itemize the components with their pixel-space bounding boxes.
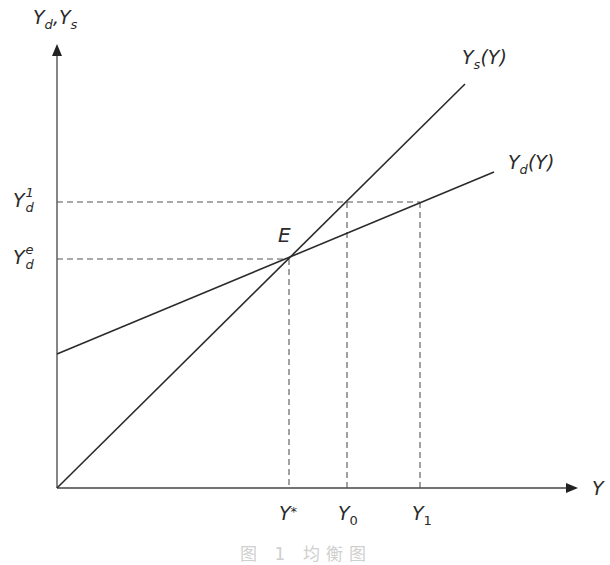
label-part: Y [338, 502, 350, 524]
label-part: Y [508, 151, 520, 173]
x-tick-y1: Y1 [412, 504, 432, 523]
demand-curve-label: Yd(Y) [508, 153, 554, 172]
x-axis-label: Y [592, 479, 604, 498]
label-part: e [26, 243, 34, 256]
label-part: d [26, 258, 34, 271]
label-part: (Y) [480, 46, 506, 68]
label-part: d [520, 162, 528, 177]
label-part: 0 [350, 513, 358, 528]
label-part: d [45, 17, 53, 32]
label-part: * [291, 504, 298, 519]
equilibrium-label: E [278, 225, 291, 245]
label-part: s [474, 57, 481, 72]
label-part: Y [279, 502, 291, 524]
demand-line [57, 172, 494, 354]
y-axis-label: Yd,Ys [33, 8, 77, 27]
label-part: s [71, 17, 78, 32]
label-part: (Y) [528, 151, 554, 173]
y-tick-yde: Yed [13, 248, 37, 268]
x-tick-ystar: Y* [279, 504, 297, 523]
y-tick-yd1: Y1d [13, 191, 37, 211]
label-part: Y [412, 502, 424, 524]
supply-line [57, 84, 465, 488]
label-part: Y [59, 6, 71, 28]
figure-caption: 图 1 均衡图 [240, 540, 372, 565]
label-part: 1 [26, 186, 34, 199]
label-part: 1 [424, 513, 432, 528]
label-part: Y [462, 46, 474, 68]
label-part: Y [13, 189, 25, 211]
x-tick-y0: Y0 [338, 504, 358, 523]
supply-curve-label: Ys(Y) [462, 48, 507, 67]
label-part: d [26, 201, 34, 214]
label-part: Y [13, 246, 25, 268]
label-part: Y [33, 6, 45, 28]
